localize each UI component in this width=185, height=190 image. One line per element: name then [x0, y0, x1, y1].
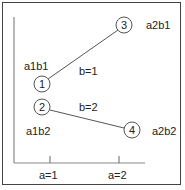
line-label-b2: b=2: [79, 102, 98, 113]
line-label-b1: b=1: [79, 66, 98, 77]
svg-text:1: 1: [39, 78, 45, 90]
cell-label-a1b1: a1b1: [24, 61, 48, 72]
svg-text:3: 3: [121, 19, 127, 31]
x-tick-label-a1: a=1: [39, 170, 58, 181]
x-tick-label-a2: a=2: [108, 170, 127, 181]
node-4: 4: [124, 122, 140, 138]
node-3: 3: [116, 17, 132, 33]
cell-label-a1b2: a1b2: [26, 126, 50, 137]
svg-text:2: 2: [39, 101, 45, 113]
cell-label-a2b1: a2b1: [146, 20, 170, 31]
cell-label-a2b2: a2b2: [152, 126, 176, 137]
node-1: 1: [34, 76, 50, 92]
node-2: 2: [34, 99, 50, 115]
svg-text:4: 4: [129, 124, 135, 136]
